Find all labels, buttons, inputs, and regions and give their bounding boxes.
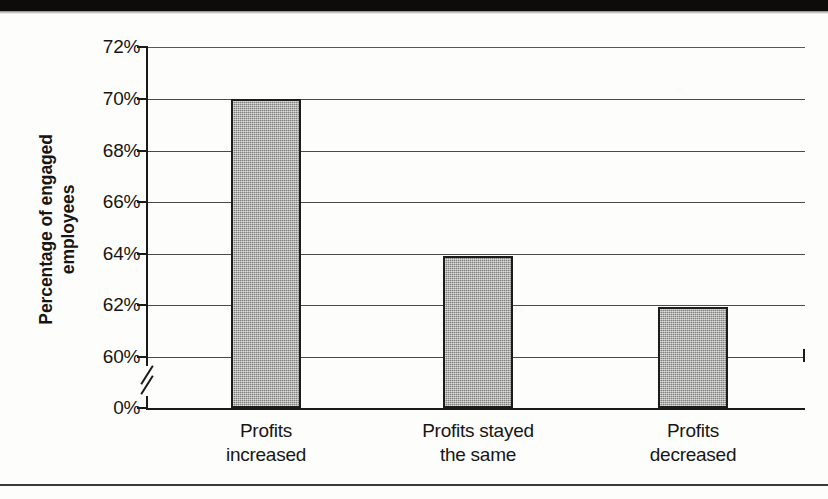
bar-profits-stayed-the-same[interactable] <box>443 256 513 408</box>
y-tickmark-62 <box>137 304 148 306</box>
y-axis-tick-labels: 72% 70% 68% 66% 64% 62% 60% 0% <box>56 0 140 499</box>
y-tick-label-68: 68% <box>56 140 140 162</box>
bar-profits-increased[interactable] <box>231 99 301 408</box>
y-tickmark-zero <box>137 407 148 409</box>
y-tick-label-60: 60% <box>56 346 140 368</box>
y-tickmark-66 <box>137 201 148 203</box>
x-label-profits-decreased: Profits decreased <box>578 419 808 468</box>
y-tickmark-68 <box>137 150 148 152</box>
y-tick-label-70: 70% <box>56 88 140 110</box>
x-label-line-1: Profits <box>578 419 808 443</box>
x-label-line-1: Profits stayed <box>363 419 593 443</box>
footer-rule <box>0 484 828 486</box>
y-axis-title-line-1: Percentage of engaged <box>35 79 57 379</box>
x-label-line-2: the same <box>363 443 593 467</box>
x-label-line-2: decreased <box>578 443 808 467</box>
x-label-line-1: Profits <box>151 419 381 443</box>
y-tick-label-zero: 0% <box>56 397 140 419</box>
y-tick-label-64: 64% <box>56 243 140 265</box>
y-tick-label-62: 62% <box>56 294 140 316</box>
x-axis-end-tick <box>803 349 805 362</box>
plot-area <box>148 47 805 408</box>
gridline-72 <box>148 47 805 48</box>
x-label-line-2: increased <box>151 443 381 467</box>
x-axis-baseline <box>148 408 805 410</box>
y-tickmark-60 <box>137 356 148 358</box>
bar-profits-decreased[interactable] <box>658 307 728 408</box>
y-tickmark-72 <box>137 46 148 48</box>
y-tick-label-66: 66% <box>56 191 140 213</box>
y-tickmark-64 <box>137 253 148 255</box>
x-label-profits-increased: Profits increased <box>151 419 381 468</box>
x-label-profits-stayed-the-same: Profits stayed the same <box>363 419 593 468</box>
chart-figure: Percentage of engaged employees 72% 70% … <box>0 0 828 499</box>
y-tick-label-72: 72% <box>56 36 140 58</box>
y-tickmark-70 <box>137 98 148 100</box>
x-axis-category-labels: Profits increased Profits stayed the sam… <box>148 419 805 483</box>
